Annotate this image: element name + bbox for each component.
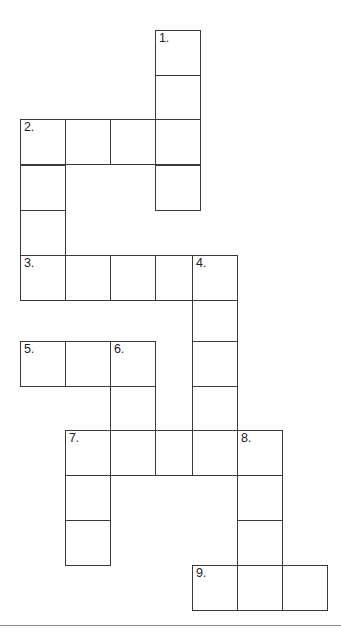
clue-number: 6. [114,342,124,357]
crossword-cell-r12-c6[interactable] [282,565,328,611]
crossword-cell-r5-c2[interactable] [110,255,156,301]
crossword-puzzle: 1.2.3.4.5.6.7.8.9. [0,0,341,635]
crossword-cell-r5-c4[interactable]: 4. [192,255,238,301]
crossword-cell-r9-c2[interactable] [110,430,156,476]
crossword-cell-r0-c3[interactable]: 1. [155,30,201,76]
clue-number: 9. [196,566,206,581]
crossword-cell-r5-c0[interactable]: 3. [20,255,66,301]
clue-number: 1. [159,31,169,46]
clue-number: 5. [24,342,34,357]
clue-number: 8. [241,431,251,446]
crossword-cell-r8-c2[interactable] [110,386,156,432]
crossword-cell-r9-c4[interactable] [192,430,238,476]
crossword-cell-r9-c1[interactable]: 7. [65,430,111,476]
crossword-cell-r4-c0[interactable] [20,210,66,256]
clue-number: 7. [69,431,79,446]
crossword-cell-r10-c1[interactable] [65,475,111,521]
crossword-cell-r11-c1[interactable] [65,520,111,566]
crossword-cell-r2-c0[interactable]: 2. [20,119,66,165]
crossword-cell-r2-c3[interactable] [155,119,201,165]
crossword-grid[interactable]: 1.2.3.4.5.6.7.8.9. [0,0,341,635]
crossword-cell-r3-c3[interactable] [155,165,201,211]
crossword-cell-r11-c5[interactable] [237,520,283,566]
crossword-cell-r6-c4[interactable] [192,300,238,346]
crossword-cell-r2-c1[interactable] [65,119,111,165]
crossword-cell-r10-c5[interactable] [237,475,283,521]
crossword-cell-r7-c4[interactable] [192,341,238,387]
crossword-cell-r12-c5[interactable] [237,565,283,611]
crossword-cell-r7-c0[interactable]: 5. [20,341,66,387]
crossword-cell-r8-c4[interactable] [192,386,238,432]
footer-divider [0,625,341,626]
crossword-cell-r7-c1[interactable] [65,341,111,387]
crossword-cell-r5-c1[interactable] [65,255,111,301]
crossword-cell-r7-c2[interactable]: 6. [110,341,156,387]
crossword-cell-r1-c3[interactable] [155,75,201,121]
crossword-cell-r3-c0[interactable] [20,165,66,211]
crossword-cell-r2-c2[interactable] [110,119,156,165]
crossword-cell-r9-c5[interactable]: 8. [237,430,283,476]
clue-number: 3. [24,256,34,271]
clue-number: 2. [24,120,34,135]
crossword-cell-r12-c4[interactable]: 9. [192,565,238,611]
clue-number: 4. [196,256,206,271]
